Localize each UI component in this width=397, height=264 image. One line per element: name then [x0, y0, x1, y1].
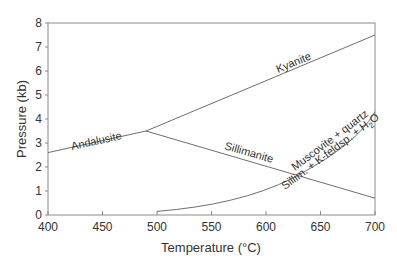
y-axis-title: Pressure (kb) — [14, 80, 29, 158]
y-tick-label: 8 — [35, 16, 42, 30]
y-tick-labels: 0 1 2 3 4 5 6 7 8 — [35, 16, 42, 222]
phase-diagram: 0 1 2 3 4 5 6 7 8 400 450 500 550 600 65… — [0, 0, 397, 264]
reaction-reactants-label: Muscovite + quartz — [289, 107, 370, 172]
y-tick-label: 4 — [35, 112, 42, 126]
x-tick-label: 450 — [92, 220, 112, 234]
x-tick-labels: 400 450 500 550 600 650 700 — [38, 220, 385, 234]
reaction-products-label: Sillim. + K-feldsp. + H2O — [279, 110, 383, 194]
x-axis-title: Temperature (°C) — [161, 240, 261, 255]
kyanite-label: Kyanite — [274, 50, 312, 75]
x-tick-label: 650 — [310, 220, 330, 234]
x-tick-label: 700 — [365, 220, 385, 234]
plot-frame — [48, 23, 375, 215]
y-tick-label: 5 — [35, 88, 42, 102]
x-axis — [48, 211, 375, 215]
y-tick-label: 3 — [35, 136, 42, 150]
y-tick-label: 6 — [35, 64, 42, 78]
andalusite-label: Andalusite — [70, 129, 123, 152]
y-tick-label: 1 — [35, 184, 42, 198]
y-tick-label: 2 — [35, 160, 42, 174]
x-tick-label: 500 — [147, 220, 167, 234]
x-tick-label: 400 — [38, 220, 58, 234]
y-tick-label: 7 — [35, 40, 42, 54]
x-tick-label: 600 — [256, 220, 276, 234]
kyanite-sillimanite-boundary — [146, 35, 375, 131]
x-tick-label: 550 — [201, 220, 221, 234]
